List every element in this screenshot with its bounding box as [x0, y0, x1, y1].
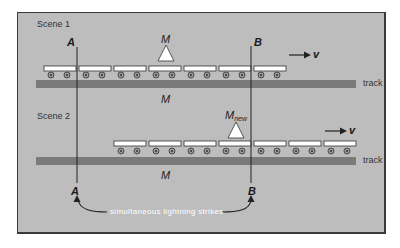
velocity-arrow-icon-scene-2 [325, 128, 347, 135]
relativity-diagram: Scene 1 Scene 2 A B A B M M Mnew M track… [0, 0, 400, 248]
lightning-strikes-caption: simultaneous lightning strikes [110, 208, 224, 216]
strike-arrow-icon-b [222, 195, 255, 212]
mass-subscript: new [234, 115, 247, 122]
train-car [219, 66, 251, 78]
train-scene-1 [44, 66, 286, 78]
point-a-bottom: A [71, 186, 79, 197]
observer-triangle-scene-1 [158, 45, 174, 61]
mass-label-scene-2: Mnew [225, 110, 247, 122]
track-label-scene-2: track [363, 156, 383, 165]
track-label-scene-1: track [363, 79, 383, 88]
train-car [289, 141, 321, 154]
velocity-arrow-icon-scene-1 [289, 52, 311, 59]
train-car [184, 66, 216, 78]
velocity-label-scene-2: v [349, 125, 355, 136]
train-car [114, 141, 146, 154]
scene-2-label: Scene 2 [37, 112, 70, 121]
train-car [149, 66, 181, 78]
mass-label-scene-1: M [161, 34, 170, 45]
scene-1-label: Scene 1 [37, 20, 70, 29]
train-car [254, 141, 286, 154]
train-scene-2 [114, 141, 356, 154]
train-car [219, 141, 251, 154]
point-b-top: B [254, 37, 262, 48]
mass-symbol: M [225, 109, 234, 121]
strike-arrow-icon-a [74, 195, 108, 212]
train-car [114, 66, 146, 78]
train-car [324, 141, 356, 154]
track-scene-2 [36, 157, 356, 165]
train-car [254, 66, 286, 78]
track-scene-1 [36, 80, 356, 88]
velocity-label-scene-1: v [313, 49, 319, 60]
train-car [79, 66, 111, 78]
point-a-top: A [67, 37, 75, 48]
train-car [44, 66, 76, 78]
train-car [184, 141, 216, 154]
train-car [149, 141, 181, 154]
track-mass-label-scene-1: M [161, 94, 170, 105]
observer-triangle-scene-2 [228, 122, 244, 138]
track-mass-label-scene-2: M [161, 170, 170, 181]
point-b-bottom: B [248, 186, 256, 197]
